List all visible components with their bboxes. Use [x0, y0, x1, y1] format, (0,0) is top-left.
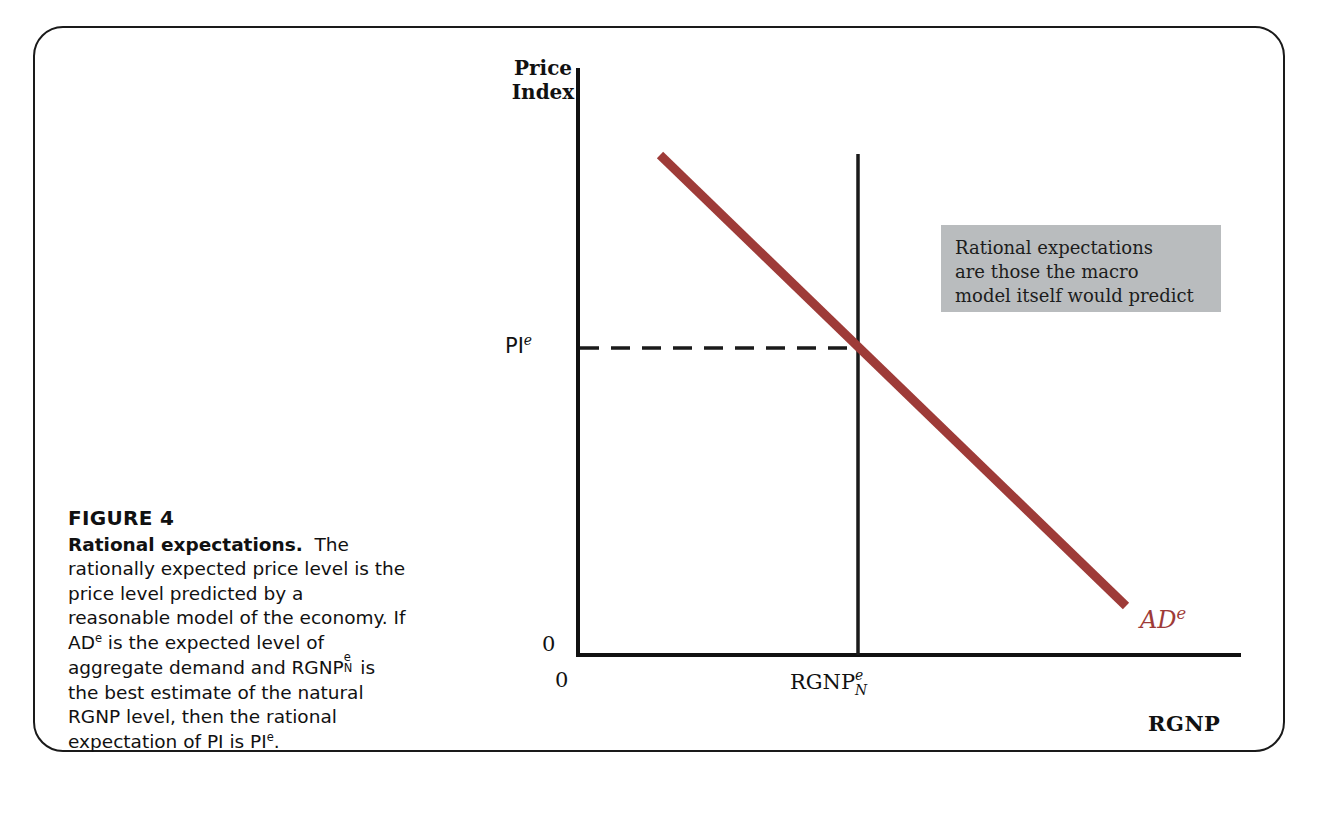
annotation-callout-box: Rational expectations are those the macr…	[941, 225, 1221, 312]
figure-number: FIGURE 4	[68, 505, 408, 532]
rgnp-superscript-e: e	[855, 667, 863, 683]
figure-title: Rational expectations.	[68, 534, 303, 555]
y-axis-origin-label: 0	[542, 632, 555, 656]
y-axis-title-line2: Index	[503, 81, 583, 105]
ad-curve-label: ADe	[1140, 604, 1186, 634]
y-axis-title-line1: Price	[503, 57, 583, 81]
y-axis-title: Price Index	[503, 57, 583, 104]
caption-line-8a: is PI	[229, 731, 266, 752]
x-axis-title: RGNP	[1148, 711, 1220, 736]
figure-caption-body: The rationally expected price level is t…	[68, 534, 406, 752]
caption-rgnp-supsub: eN	[344, 656, 355, 675]
caption-line-8b: .	[274, 731, 280, 752]
figure-canvas: Price Index RGNP PIe 0 0 RGNPeN ADe Rati…	[0, 0, 1326, 817]
natural-rgnp-label: RGNPeN	[790, 670, 864, 694]
caption-ad-superscript-e: e	[95, 631, 102, 645]
rgnp-subscript-n: N	[855, 682, 867, 698]
figure-caption: FIGURE 4Rational expectations. The ratio…	[68, 505, 408, 754]
callout-line-1: Rational expectations	[955, 236, 1221, 260]
caption-rgnp-subscript-n: N	[344, 661, 353, 676]
pi-superscript-e: e	[524, 332, 532, 348]
annotation-callout-text: Rational expectations are those the macr…	[955, 236, 1221, 307]
x-axis-origin-label: 0	[555, 668, 568, 692]
expected-price-index-label: PIe	[505, 332, 532, 358]
callout-line-3: model itself would predict	[955, 284, 1221, 308]
ad-superscript-e: e	[1177, 604, 1187, 623]
caption-pi-superscript-e: e	[267, 730, 274, 744]
callout-line-2: are those the macro	[955, 260, 1221, 284]
rgnp-supsub: eN	[855, 675, 864, 689]
caption-line-5a: aggregate demand and RGNP	[68, 657, 344, 678]
caption-line-4b: is the expected level of	[108, 632, 324, 653]
